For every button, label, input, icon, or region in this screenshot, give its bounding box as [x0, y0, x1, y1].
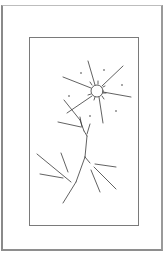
tree-branch: [64, 100, 80, 120]
sun-ray-short: [102, 96, 104, 99]
line-drawing: [0, 0, 166, 254]
sun-ray: [99, 97, 103, 123]
sun-ray-short: [94, 97, 95, 100]
tree-branch: [80, 117, 82, 127]
tree-branch: [91, 170, 100, 192]
sun-ray: [63, 77, 91, 88]
sun-disc: [91, 85, 103, 97]
sun-ray: [103, 92, 131, 97]
tree-branch: [85, 157, 90, 163]
sun-ray: [67, 96, 92, 113]
sun-ray: [102, 66, 123, 86]
star-dot: [68, 95, 70, 97]
star-dot: [89, 115, 91, 117]
tree-branch: [37, 154, 71, 182]
star-dot: [103, 69, 105, 71]
tree-branch: [95, 164, 116, 167]
tree-trunk: [85, 136, 87, 157]
sun-ray-short: [88, 94, 91, 95]
sun: [63, 61, 131, 123]
star-dot: [80, 72, 82, 74]
tree-trunk: [76, 157, 85, 182]
tree-branch: [87, 124, 90, 134]
sun-ray-short: [103, 86, 105, 87]
sun-ray-short: [90, 82, 92, 85]
tree-trunk: [63, 182, 76, 203]
stars: [68, 69, 123, 117]
tree-branch: [61, 153, 68, 172]
tree: [37, 100, 116, 203]
tree-branch: [84, 131, 87, 136]
sun-ray: [88, 61, 95, 85]
star-dot: [121, 84, 123, 86]
tree-branch: [40, 174, 63, 178]
star-dot: [115, 110, 117, 112]
tree-branch: [58, 122, 81, 127]
